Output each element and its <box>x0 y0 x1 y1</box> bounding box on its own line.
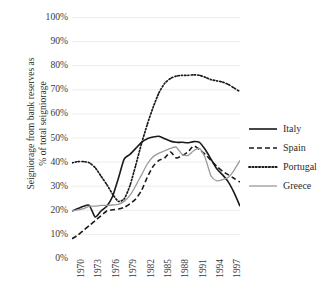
y-axis-tick-label: 40% <box>24 157 68 167</box>
x-axis-tick-label: 1997 <box>232 259 242 299</box>
x-axis-tick-label: 1991 <box>198 259 208 299</box>
x-axis-tick-labels: 1970197319761979198219851988199119941997 <box>72 259 240 302</box>
series-lines <box>72 75 240 239</box>
y-axis-tick-label: 100% <box>24 12 68 22</box>
legend-item-portugal[interactable]: Portugal <box>248 157 333 176</box>
y-axis-tick-label: 70% <box>24 84 68 94</box>
chart-legend: ItalySpainPortugalGreece <box>248 119 333 195</box>
plot-area <box>72 17 240 258</box>
legend-item-spain[interactable]: Spain <box>248 138 333 157</box>
y-axis-tick-label: 20% <box>24 205 68 215</box>
y-axis-tick-label: 10% <box>24 229 68 239</box>
x-axis-tick-label: 1988 <box>180 259 190 299</box>
legend-label: Italy <box>278 123 301 135</box>
x-axis-tick-label: 1994 <box>215 259 225 299</box>
series-line-spain <box>72 146 240 239</box>
x-axis-tick-label: 1976 <box>111 259 121 299</box>
seigniorage-line-chart: Seigniorage from bank reserves as % of t… <box>0 0 333 302</box>
legend-label: Spain <box>278 142 306 154</box>
series-line-greece <box>72 147 240 211</box>
y-axis-tick-label: 30% <box>24 181 68 191</box>
legend-swatch-portugal-icon <box>248 162 278 172</box>
legend-label: Greece <box>278 180 311 192</box>
x-axis-tick-label: 1979 <box>128 259 138 299</box>
legend-label: Portugal <box>278 161 317 173</box>
x-axis-tick-label: 1985 <box>163 259 173 299</box>
legend-item-italy[interactable]: Italy <box>248 119 333 138</box>
x-axis-tick-label: 1982 <box>146 259 156 299</box>
y-axis-tick-label: 80% <box>24 60 68 70</box>
legend-swatch-italy-icon <box>248 124 278 134</box>
y-axis-tick-label: 50% <box>24 133 68 143</box>
y-axis-tick-label: 0% <box>24 253 68 263</box>
series-line-italy <box>72 136 240 217</box>
y-axis-tick-labels: 0%10%20%30%40%50%60%70%80%90%100% <box>22 0 68 302</box>
legend-swatch-spain-icon <box>248 143 278 153</box>
legend-swatch-greece-icon <box>248 181 278 191</box>
x-axis-tick-label: 1970 <box>76 259 86 299</box>
x-axis-tick-label: 1973 <box>93 259 103 299</box>
legend-item-greece[interactable]: Greece <box>248 176 333 195</box>
y-axis-tick-label: 90% <box>24 36 68 46</box>
y-axis-tick-label: 60% <box>24 108 68 118</box>
gridlines <box>72 18 240 259</box>
